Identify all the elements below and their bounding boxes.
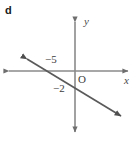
origin-label: O <box>78 74 86 85</box>
x-axis-label: x <box>124 75 129 86</box>
plotted-line <box>27 59 121 116</box>
y-intercept-label: −2 <box>53 83 65 94</box>
coordinate-plane-figure: d y x −5 −2 O <box>0 0 137 142</box>
coordinate-plane-graph <box>0 0 137 142</box>
y-axis-label: y <box>84 16 89 27</box>
x-intercept-label: −5 <box>45 54 57 65</box>
